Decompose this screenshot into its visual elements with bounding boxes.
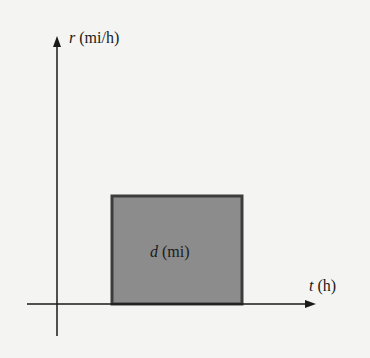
region-unit: (mi)	[162, 243, 190, 260]
x-axis-unit: (h)	[317, 277, 336, 294]
y-axis-arrow-icon	[53, 36, 61, 47]
x-axis-variable: t	[309, 277, 313, 294]
y-axis-unit: (mi/h)	[79, 29, 119, 46]
y-axis-variable: r	[69, 29, 75, 46]
region-variable: d	[150, 243, 158, 260]
region-label: d (mi)	[150, 243, 190, 261]
y-axis-label: r (mi/h)	[69, 29, 119, 47]
x-axis-arrow-icon	[305, 300, 316, 308]
rate-time-diagram	[0, 0, 370, 358]
x-axis-label: t (h)	[309, 277, 336, 295]
